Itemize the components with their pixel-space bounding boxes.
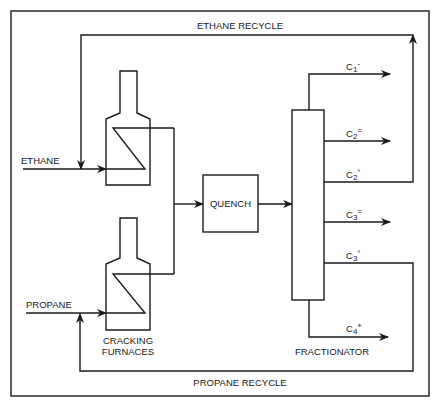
cracking-furnace-propane [106, 218, 174, 330]
furnaces-label-2: FURNACES [102, 346, 154, 357]
svg-text:C3=: C3= [346, 207, 362, 222]
product-c1-line [309, 74, 390, 110]
propane-feed-label: PROPANE [26, 299, 72, 310]
process-flow-diagram: ETHANE RECYCLE PROPANE RECYCLE ETHANE PR… [0, 0, 436, 402]
cracking-furnace-ethane [106, 71, 174, 185]
product-label-c3-paraffin: C3° [346, 249, 361, 263]
product-label-c2-olefin: C2= [346, 126, 362, 141]
ethane-recycle-label: ETHANE RECYCLE [197, 20, 283, 31]
product-label-c4-plus: C4+ [346, 321, 362, 336]
product-label-c1: C1- [346, 59, 360, 74]
svg-text:C3°: C3° [346, 249, 361, 263]
svg-text:C1-: C1- [346, 59, 360, 74]
product-label-c2-paraffin: C2° [346, 168, 361, 182]
propane-recycle-label: PROPANE RECYCLE [193, 377, 286, 388]
product-label-c3-olefin: C3= [346, 207, 362, 222]
svg-text:C2°: C2° [346, 168, 361, 182]
fractionator-column [292, 110, 324, 300]
fractionator-label: FRACTIONATOR [295, 346, 369, 357]
svg-text:C2=: C2= [346, 126, 362, 141]
furnaces-label-1: CRACKING [103, 335, 153, 346]
ethane-feed-label: ETHANE [21, 155, 60, 166]
quench-label: QUENCH [210, 198, 251, 209]
svg-text:C4+: C4+ [346, 321, 362, 336]
